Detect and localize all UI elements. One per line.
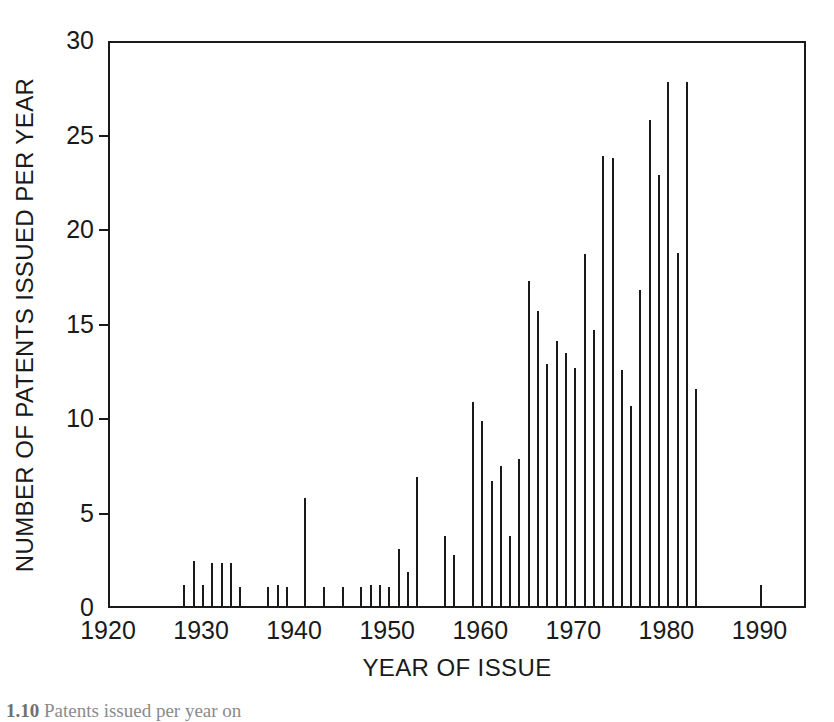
y-tick-label: 15 <box>66 310 94 338</box>
bar <box>453 555 455 606</box>
bar <box>630 406 632 606</box>
bar <box>211 563 213 606</box>
y-tick-mark <box>99 418 108 420</box>
bar <box>500 466 502 606</box>
bar <box>667 82 669 606</box>
figure-caption-number: 1.10 <box>6 700 39 721</box>
x-tick-label: 1930 <box>173 616 229 644</box>
x-tick-label: 1960 <box>452 616 508 644</box>
x-tick-label: 1920 <box>80 616 136 644</box>
y-tick-label: 10 <box>66 404 94 432</box>
bar <box>481 421 483 606</box>
y-tick-mark <box>99 324 108 326</box>
figure-caption-text: Patents issued per year on <box>44 700 241 721</box>
bar <box>686 82 688 606</box>
bar <box>546 364 548 606</box>
bar <box>304 498 306 606</box>
bar <box>491 481 493 606</box>
bar <box>658 175 660 606</box>
x-axis-title: YEAR OF ISSUE <box>108 654 806 682</box>
x-tick-label: 1990 <box>732 616 788 644</box>
bar <box>267 587 269 606</box>
bar <box>360 587 362 606</box>
x-tick-label: 1970 <box>546 616 602 644</box>
y-tick-label: 25 <box>66 121 94 149</box>
bar <box>202 585 204 606</box>
bar <box>528 281 530 606</box>
bar <box>379 585 381 606</box>
bar <box>574 368 576 606</box>
bar <box>760 585 762 606</box>
bar <box>639 290 641 606</box>
x-tick-label: 1940 <box>266 616 322 644</box>
bar <box>612 158 614 606</box>
bar <box>556 341 558 606</box>
y-axis: 051015202530 <box>0 0 108 714</box>
y-tick-mark <box>99 513 108 515</box>
bar <box>239 587 241 606</box>
figure-caption: 1.10 Patents issued per year on <box>6 699 834 722</box>
bar <box>584 254 586 606</box>
bar <box>444 536 446 606</box>
y-tick-label: 20 <box>66 215 94 243</box>
bar <box>649 120 651 606</box>
bar <box>695 389 697 606</box>
bar <box>677 253 679 606</box>
plot-area <box>108 41 806 608</box>
bar <box>323 587 325 606</box>
bar <box>472 402 474 606</box>
bar <box>277 585 279 606</box>
bar <box>221 563 223 606</box>
bar <box>407 572 409 606</box>
bar <box>230 563 232 606</box>
bar <box>565 353 567 606</box>
bar <box>416 477 418 606</box>
bar <box>370 585 372 606</box>
bar <box>509 536 511 606</box>
y-tick-label: 30 <box>66 26 94 54</box>
bar <box>183 585 185 606</box>
bar <box>602 156 604 606</box>
bar <box>286 587 288 606</box>
x-tick-label: 1980 <box>639 616 695 644</box>
bar <box>537 311 539 606</box>
y-tick-mark <box>99 229 108 231</box>
y-tick-label: 5 <box>80 499 94 527</box>
bar <box>342 587 344 606</box>
bar <box>621 370 623 606</box>
bar <box>398 549 400 606</box>
bar <box>518 459 520 606</box>
x-tick-label: 1950 <box>359 616 415 644</box>
bar <box>388 587 390 606</box>
bar <box>193 561 195 606</box>
bars-layer <box>110 43 804 606</box>
y-tick-mark <box>99 135 108 137</box>
bar <box>593 330 595 606</box>
